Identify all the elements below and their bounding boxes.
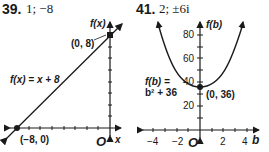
x-tick-neg2: −2 bbox=[172, 136, 184, 147]
quadratic-graph: 80 60 40 20 −4 −2 2 4 f(b) b O f(b) = b²… bbox=[135, 0, 269, 152]
point-label-neg8-0: (−8, 0) bbox=[20, 134, 49, 145]
y-axis-label: f(x) bbox=[90, 18, 106, 29]
x-axis-label: x bbox=[114, 134, 121, 145]
vertex-point bbox=[197, 84, 203, 90]
problem-41-panel: 41. 2; ±6i 80 60 bbox=[135, 0, 269, 152]
linear-graph: f(x) (0, 8) f(x) = x + 8 (−8, 0) O x bbox=[0, 0, 135, 152]
function-label: f(x) = x + 8 bbox=[10, 74, 60, 85]
origin-label: O bbox=[96, 134, 106, 149]
x-axis-label: b bbox=[252, 133, 259, 147]
y-axis-label: f(b) bbox=[206, 19, 223, 30]
y-tick-80: 80 bbox=[183, 29, 195, 40]
y-tick-20: 20 bbox=[183, 100, 195, 111]
point-0-8 bbox=[107, 32, 113, 38]
x-tick-4: 4 bbox=[242, 136, 248, 147]
vertex-label: (0, 36) bbox=[206, 89, 235, 100]
x-tick-neg4: −4 bbox=[147, 136, 159, 147]
function-label-line1: f(b) = bbox=[145, 76, 170, 87]
y-tick-60: 60 bbox=[183, 53, 195, 64]
function-label-line2: b² + 36 bbox=[145, 87, 177, 98]
origin-label: O bbox=[188, 135, 198, 150]
x-tick-2: 2 bbox=[220, 136, 226, 147]
problem-39-panel: 39. 1; −8 f(x) (0, 8) bbox=[0, 0, 135, 152]
y-tick-40: 40 bbox=[183, 76, 195, 87]
point-label-0-8: (0, 8) bbox=[71, 38, 94, 49]
point-neg8-0 bbox=[14, 125, 20, 131]
